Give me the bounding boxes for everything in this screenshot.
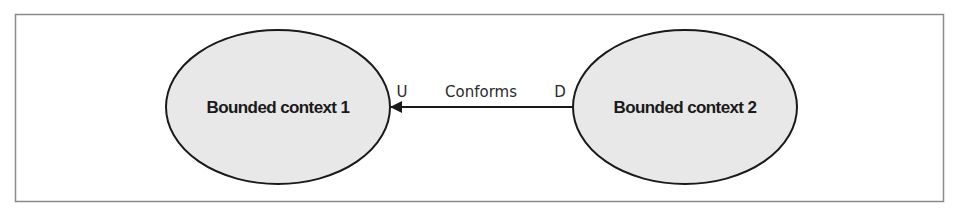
- node-label-bc1: Bounded context 1: [207, 98, 350, 117]
- edge-label-conforms: Conforms: [445, 83, 517, 101]
- downstream-marker: D: [554, 83, 566, 101]
- diagram-frame: [16, 15, 944, 202]
- upstream-marker: U: [397, 83, 408, 101]
- node-label-bc2: Bounded context 2: [614, 98, 757, 117]
- context-map-diagram: Bounded context 1 Bounded context 2 U Co…: [0, 0, 959, 211]
- node-bounded-context-2: Bounded context 2: [573, 30, 797, 184]
- node-bounded-context-1: Bounded context 1: [166, 30, 390, 184]
